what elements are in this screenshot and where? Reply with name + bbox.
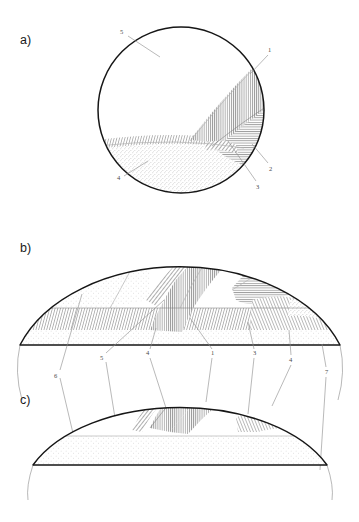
panel-b-arc-left — [17, 345, 22, 400]
panel-c-body — [30, 366, 330, 468]
panel-b-letter: b) — [20, 241, 31, 255]
callout-a-5: 5 — [120, 28, 123, 35]
panel-c-arc-left — [28, 465, 33, 500]
panel-b-arc-right — [338, 345, 343, 400]
callout-a-1: 1 — [268, 46, 271, 53]
zone-3-hatch-b — [232, 239, 336, 304]
panel-c-arc-right — [327, 465, 332, 500]
callout-b-3: 3 — [253, 349, 256, 356]
figure-root: a) 5 1 — [0, 0, 359, 522]
cross-section-figure: a) 5 1 — [0, 0, 359, 522]
callout-b-4: 4 — [289, 356, 293, 363]
callout-b-1: 1 — [211, 349, 214, 356]
panel-a: a) 5 1 — [20, 24, 272, 199]
zone-basal-stipple-c — [36, 436, 324, 466]
callout-b-4b: 4 — [146, 349, 150, 356]
callout-b-5: 5 — [100, 354, 103, 361]
panel-a-body — [95, 24, 272, 199]
callout-b-6: 6 — [54, 372, 58, 379]
callout-a-4: 4 — [117, 174, 121, 181]
panel-a-letter: a) — [20, 33, 31, 47]
callout-b-7: 7 — [325, 368, 329, 375]
zone-3-hatch-c — [196, 370, 304, 411]
panel-b-body — [18, 226, 342, 348]
zone-eye-stipple-c — [256, 399, 302, 418]
callout-a-3: 3 — [256, 183, 259, 190]
panel-c: c) — [20, 366, 332, 500]
panel-c-letter: c) — [20, 393, 30, 407]
callout-a-2: 2 — [269, 165, 272, 172]
